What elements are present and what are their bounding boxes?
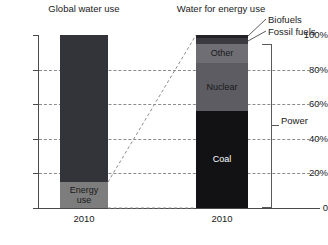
bar-global-water-use: Energy use	[60, 35, 108, 208]
bar-segment-nuclear: Nuclear	[196, 63, 248, 111]
y-tick-mark	[33, 104, 38, 105]
bar-segment-label: Other	[211, 48, 234, 59]
y-tick-mark	[33, 35, 38, 36]
leader-biofuels	[248, 19, 266, 36]
chart-figure: Global water use Water for energy use 10…	[0, 0, 328, 245]
connector-top	[108, 35, 196, 182]
bar-segment-label: Coal	[213, 154, 232, 165]
bar-segment-energy-use: Energy use	[60, 182, 108, 208]
callout-power: Power	[281, 116, 308, 127]
callout-biofuels: Biofuels	[268, 15, 302, 26]
bar-segment-label: Nuclear	[206, 82, 237, 93]
panel-left-title: Global water use	[34, 3, 134, 15]
bar-segment-biofuels	[196, 35, 248, 38]
y-axis-line	[38, 35, 39, 208]
callout-fossil-fuels: Fossil fuels	[268, 27, 316, 38]
bar-segment-label: Energy use	[70, 185, 99, 206]
y-tick-mark	[33, 139, 38, 140]
bar-water-for-energy-use: CoalNuclearOther	[196, 35, 248, 208]
bar-segment-coal: Coal	[196, 111, 248, 208]
y-tick-mark	[33, 208, 38, 209]
power-bracket	[262, 44, 272, 208]
bar-segment-other-water-use	[60, 35, 108, 182]
x-axis-line	[38, 208, 320, 209]
y-tick-mark	[33, 173, 38, 174]
bar-segment-fossil-fuels	[196, 38, 248, 43]
leader-fossil-fuels	[248, 31, 266, 41]
x-axis-label-right: 2010	[172, 213, 272, 224]
panel-right-title: Water for energy use	[162, 3, 280, 15]
bar-segment-other: Other	[196, 44, 248, 63]
y-tick-label: 0	[295, 203, 328, 213]
y-tick-mark	[33, 70, 38, 71]
power-bracket-tick	[272, 125, 279, 126]
x-axis-label-left: 2010	[34, 213, 134, 224]
